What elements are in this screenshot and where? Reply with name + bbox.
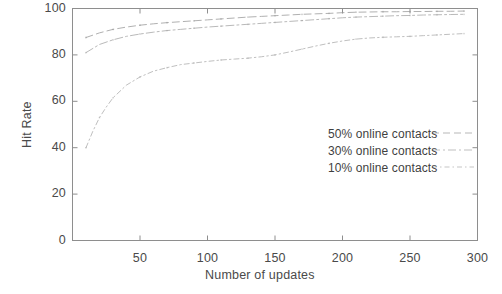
- plot-border: [73, 9, 478, 241]
- y-axis-title: Hit Rate: [20, 101, 34, 148]
- legend-line-samples: [432, 133, 474, 167]
- y-tick-label: 80: [28, 47, 66, 61]
- x-tick-label: 150: [250, 251, 300, 265]
- x-axis-title: Number of updates: [205, 268, 315, 282]
- x-tick-label: 100: [183, 251, 233, 265]
- y-tick-label: 0: [28, 233, 66, 247]
- x-tick-label: 50: [115, 251, 165, 265]
- y-tick-label: 100: [28, 1, 66, 15]
- y-tick-label: 20: [28, 186, 66, 200]
- axis-ticks: [73, 9, 478, 241]
- legend-entry-label: 50% online contacts: [328, 127, 437, 141]
- x-tick-label: 300: [453, 251, 502, 265]
- legend-entry-label: 30% online contacts: [328, 144, 437, 158]
- chart-figure: 0 20 40 60 80 100 50 100 150 200 250 300…: [0, 0, 502, 294]
- x-tick-label: 200: [318, 251, 368, 265]
- legend-entry-label: 10% online contacts: [328, 161, 437, 175]
- x-tick-label: 250: [385, 251, 435, 265]
